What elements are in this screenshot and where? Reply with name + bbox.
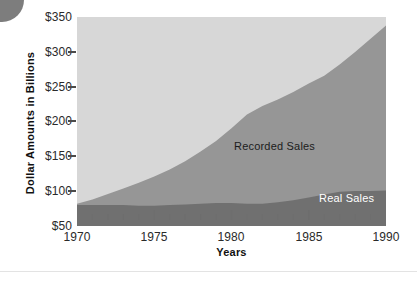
x-tick-label-1980: 1980 — [201, 230, 261, 244]
plot-area: Recorded Sales Real Sales — [77, 17, 386, 226]
y-tick-mark-250 — [68, 86, 76, 88]
y-tick-label-100: $100 — [0, 185, 72, 197]
y-tick-label-150: $150 — [0, 150, 72, 162]
y-axis-title: Dollar Amounts in Billions — [24, 33, 36, 213]
chart-figure: $350 $300 $250 $200 $150 $100 $50 Dollar… — [0, 0, 417, 282]
series-annotation-recorded-sales: Recorded Sales — [234, 140, 315, 152]
x-tick-label-1970: 1970 — [47, 230, 107, 244]
x-tick-label-1985: 1985 — [279, 230, 339, 244]
y-tick-label-300: $300 — [0, 46, 72, 58]
x-tick-label-1990: 1990 — [356, 230, 416, 244]
series-annotation-real-sales: Real Sales — [319, 192, 374, 204]
page-divider — [0, 271, 417, 272]
x-axis-title: Years — [77, 246, 386, 258]
y-tick-mark-200 — [68, 120, 76, 122]
x-tick-label-1975: 1975 — [124, 230, 184, 244]
y-tick-label-250: $250 — [0, 81, 72, 93]
y-tick-label-350: $350 — [0, 11, 72, 23]
y-tick-mark-300 — [68, 51, 76, 53]
y-tick-mark-150 — [68, 155, 76, 157]
y-tick-mark-100 — [68, 190, 76, 192]
y-tick-label-200: $200 — [0, 115, 72, 127]
